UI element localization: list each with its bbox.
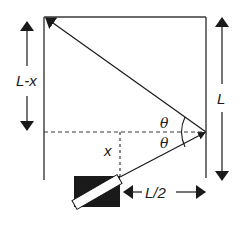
label-theta-top: θ <box>160 115 169 131</box>
label-x: x <box>103 142 112 159</box>
label-l: L <box>217 90 225 107</box>
label-l-half: L/2 <box>145 184 167 201</box>
label-theta-bottom: θ <box>160 135 169 151</box>
reflection-diagram: L-x L L/2 x θ θ <box>0 0 245 226</box>
reflected-ray <box>46 18 206 132</box>
laser-source <box>72 175 122 210</box>
label-l-minus-x: L-x <box>16 72 37 89</box>
